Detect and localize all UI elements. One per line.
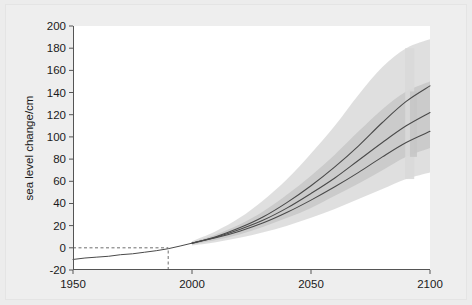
y-axis-ticks: -20020406080100120140160180200 <box>47 20 73 276</box>
y-tick-label: -20 <box>49 264 66 276</box>
y-tick-label: 60 <box>53 175 66 187</box>
x-tick-label: 2100 <box>417 278 443 290</box>
y-tick-label: 140 <box>47 87 66 99</box>
y-tick-label: 40 <box>53 197 66 209</box>
terminator-inner <box>410 91 417 156</box>
y-axis-label: sea level change/cm <box>23 96 35 201</box>
y-tick-label: 20 <box>53 220 66 232</box>
y-tick-label: 100 <box>47 131 66 143</box>
x-tick-label: 2000 <box>179 278 205 290</box>
figure-container: -20020406080100120140160180200 195020002… <box>0 0 472 305</box>
x-axis-ticks: 1950200020502100 <box>60 270 443 290</box>
y-tick-label: 0 <box>60 242 66 254</box>
y-tick-label: 200 <box>47 20 66 32</box>
x-tick-label: 2050 <box>298 278 324 290</box>
y-tick-label: 180 <box>47 42 66 54</box>
sea-level-chart: -20020406080100120140160180200 195020002… <box>0 0 472 305</box>
x-tick-label: 1950 <box>60 278 86 290</box>
y-tick-label: 80 <box>53 153 66 165</box>
y-tick-label: 120 <box>47 109 66 121</box>
y-tick-label: 160 <box>47 64 66 76</box>
